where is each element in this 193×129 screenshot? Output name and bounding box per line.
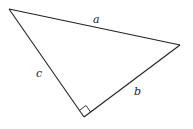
side-c-line bbox=[9, 9, 84, 117]
triangle-diagram: a b c bbox=[0, 0, 193, 129]
side-a-label: a bbox=[93, 13, 100, 26]
side-b-label: b bbox=[134, 85, 141, 98]
side-c-label: c bbox=[36, 67, 42, 80]
right-angle-marker bbox=[79, 106, 90, 113]
side-b-line bbox=[84, 45, 180, 117]
